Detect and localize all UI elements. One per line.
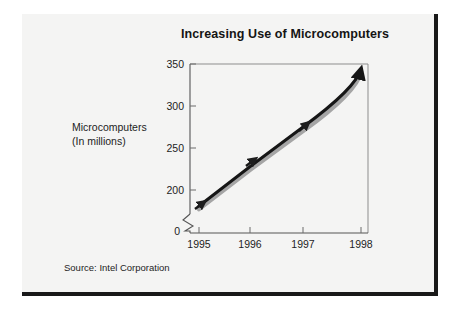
- y-axis-break-zigzag: [183, 214, 193, 233]
- x-axis-tick-labels: 1995 1996 1997 1998: [187, 238, 373, 250]
- y-tick-200: 200: [166, 184, 184, 196]
- y-tick-350: 350: [166, 58, 184, 70]
- data-line-series-microcomputers: [199, 69, 361, 206]
- figure-root: Increasing Use of Microcomputers Microco…: [0, 0, 460, 310]
- x-tick-1995: 1995: [187, 238, 211, 250]
- y-tick-0: 0: [174, 225, 180, 237]
- x-tick-1998: 1998: [349, 238, 373, 250]
- y-axis-ticks: [190, 64, 196, 190]
- x-axis-ticks: [199, 227, 361, 233]
- source-note: Source: Intel Corporation: [64, 262, 170, 273]
- y-tick-300: 300: [166, 100, 184, 112]
- y-axis-tick-labels: 350 300 250 200 0: [166, 58, 184, 237]
- x-tick-1997: 1997: [291, 238, 315, 250]
- y-tick-250: 250: [166, 142, 184, 154]
- x-tick-1996: 1996: [238, 238, 262, 250]
